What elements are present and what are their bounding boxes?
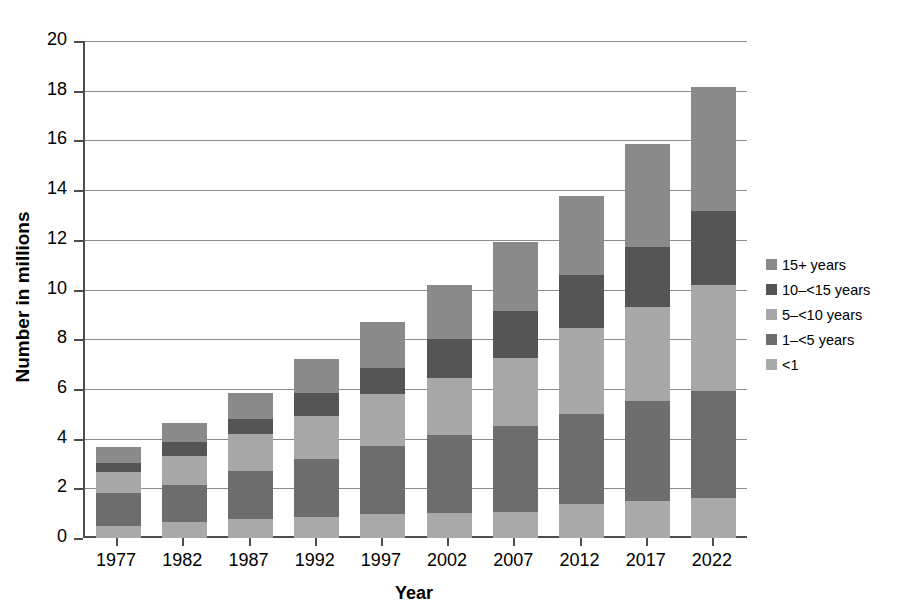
legend-item[interactable]: 15+ years [766, 252, 901, 277]
y-tick-mark [74, 240, 83, 242]
bar-segment[interactable] [493, 512, 538, 538]
bar-segment[interactable] [625, 247, 670, 307]
legend-swatch-icon [766, 284, 777, 295]
x-tick-mark [513, 538, 515, 546]
bar-segment[interactable] [360, 394, 405, 446]
legend-item[interactable]: 5–<10 years [766, 302, 901, 327]
bar-segment[interactable] [294, 416, 339, 458]
bar-segment[interactable] [360, 322, 405, 368]
plot-area [83, 41, 745, 538]
bar-segment[interactable] [691, 498, 736, 538]
bar-segment[interactable] [559, 414, 604, 505]
bar-segment[interactable] [162, 456, 207, 485]
y-tick-mark [74, 538, 83, 540]
y-tick-label: 12 [23, 228, 67, 249]
bar-stack [427, 285, 472, 538]
bar-segment[interactable] [427, 285, 472, 340]
bar-segment[interactable] [228, 471, 273, 519]
y-tick-mark [74, 488, 83, 490]
bar-segment[interactable] [559, 328, 604, 414]
bar-segment[interactable] [691, 87, 736, 211]
bar-group[interactable] [493, 242, 538, 538]
bar-segment[interactable] [691, 211, 736, 284]
bar-stack [294, 359, 339, 538]
y-tick-label: 0 [23, 526, 67, 547]
y-tick-mark [74, 91, 83, 93]
bar-segment[interactable] [691, 391, 736, 498]
bar-segment[interactable] [493, 311, 538, 358]
bar-segment[interactable] [360, 446, 405, 514]
bar-segment[interactable] [96, 472, 141, 493]
bar-group[interactable] [691, 87, 736, 538]
bar-segment[interactable] [162, 423, 207, 443]
bar-stack [360, 322, 405, 538]
legend-item-label: 10–<15 years [782, 282, 870, 298]
bar-segment[interactable] [493, 358, 538, 426]
legend-item[interactable]: 10–<15 years [766, 277, 901, 302]
bar-segment[interactable] [294, 359, 339, 393]
bar-group[interactable] [294, 359, 339, 538]
bar-segment[interactable] [294, 459, 339, 517]
legend-swatch-icon [766, 259, 777, 270]
bar-group[interactable] [96, 447, 141, 538]
bar-segment[interactable] [493, 426, 538, 512]
stacked-bar-chart: Number in millions 02468101214161820 197… [0, 0, 905, 614]
bar-segment[interactable] [360, 368, 405, 394]
bar-segment[interactable] [96, 463, 141, 472]
bar-group[interactable] [625, 144, 670, 538]
bar-segment[interactable] [493, 242, 538, 310]
bar-stack [96, 447, 141, 538]
bar-segment[interactable] [427, 435, 472, 513]
bar-group[interactable] [360, 322, 405, 538]
y-tick-label: 18 [23, 79, 67, 100]
bar-segment[interactable] [625, 144, 670, 247]
y-tick-mark [74, 140, 83, 142]
bar-segment[interactable] [96, 493, 141, 525]
bar-segment[interactable] [427, 513, 472, 538]
bar-segment[interactable] [427, 339, 472, 378]
bar-segment[interactable] [228, 419, 273, 434]
x-axis-title: Year [83, 583, 745, 604]
bar-group[interactable] [559, 196, 604, 538]
legend-swatch-icon [766, 334, 777, 345]
bar-stack [691, 87, 736, 538]
bar-segment[interactable] [228, 393, 273, 419]
legend-item-label: 1–<5 years [782, 332, 854, 348]
bar-segment[interactable] [294, 517, 339, 538]
legend-item[interactable]: 1–<5 years [766, 327, 901, 352]
bar-segment[interactable] [162, 522, 207, 538]
bar-segment[interactable] [360, 514, 405, 538]
bar-segment[interactable] [162, 442, 207, 456]
bar-segment[interactable] [559, 275, 604, 328]
bar-segment[interactable] [559, 196, 604, 274]
y-tick-label: 4 [23, 427, 67, 448]
bar-segment[interactable] [96, 447, 141, 463]
bar-group[interactable] [427, 285, 472, 538]
bar-group[interactable] [162, 423, 207, 539]
bar-group[interactable] [228, 393, 273, 538]
bar-segment[interactable] [625, 401, 670, 500]
bar-segment[interactable] [691, 285, 736, 392]
x-tick-mark [315, 538, 317, 546]
x-tick-mark [646, 538, 648, 546]
bar-stack [625, 144, 670, 538]
y-tick-mark [74, 439, 83, 441]
bar-segment[interactable] [559, 504, 604, 538]
bar-segment[interactable] [294, 393, 339, 417]
y-tick-mark [74, 190, 83, 192]
legend-item[interactable]: <1 [766, 352, 901, 377]
x-tick-mark [182, 538, 184, 546]
bar-stack [162, 423, 207, 539]
legend-item-label: 5–<10 years [782, 307, 862, 323]
bar-segment[interactable] [228, 434, 273, 471]
bar-segment[interactable] [96, 526, 141, 538]
y-tick-label: 2 [23, 476, 67, 497]
bar-segment[interactable] [228, 519, 273, 538]
y-tick-label: 20 [23, 29, 67, 50]
legend-item-label: 15+ years [782, 257, 846, 273]
bar-segment[interactable] [162, 485, 207, 522]
bar-segment[interactable] [625, 501, 670, 538]
x-tick-mark [381, 538, 383, 546]
bar-segment[interactable] [427, 378, 472, 435]
bar-segment[interactable] [625, 307, 670, 401]
